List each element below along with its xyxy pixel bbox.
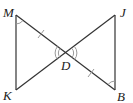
angle-arc-b	[108, 81, 115, 85]
label-d: D	[60, 58, 71, 73]
angle-arc-m	[16, 21, 23, 25]
label-m: M	[2, 5, 15, 20]
angle-arc-d-right-2	[75, 47, 77, 60]
bowtie-diagram: M J K B D	[0, 0, 133, 103]
angle-arc-d-right-1	[72, 49, 74, 58]
tick-mark-md	[38, 30, 44, 38]
label-b: B	[117, 89, 125, 103]
label-k: K	[2, 88, 13, 103]
angle-arc-d-left-2	[55, 47, 57, 60]
label-j: J	[120, 5, 127, 20]
